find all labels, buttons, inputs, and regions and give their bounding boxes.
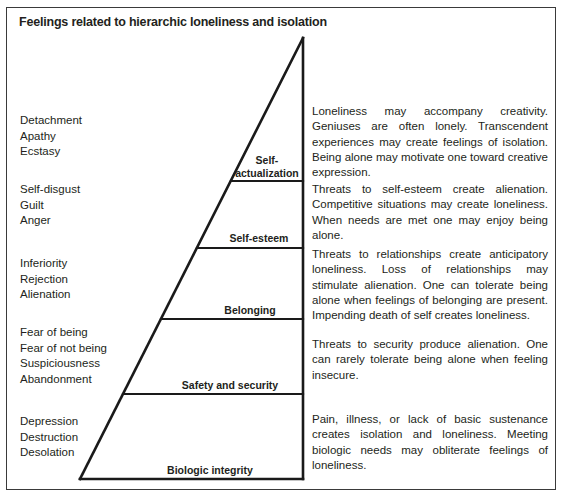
feeling-item: Detachment — [20, 113, 82, 129]
feeling-item: Rejection — [20, 272, 71, 288]
feelings-self-actualization: Detachment Apathy Ecstasy — [20, 113, 82, 160]
feeling-item: Fear of not being — [20, 341, 107, 357]
description-self-esteem: Threats to self-esteem create alienation… — [312, 182, 548, 243]
level-label-self-actualization: Self- actualization — [232, 154, 302, 180]
feeling-item: Self-disgust — [20, 182, 80, 198]
feeling-item: Suspiciousness — [20, 356, 107, 372]
description-biologic: Pain, illness, or lack of basic sustenan… — [312, 412, 548, 473]
feeling-item: Ecstasy — [20, 144, 82, 160]
feeling-item: Guilt — [20, 198, 80, 214]
feeling-item: Desolation — [20, 445, 78, 461]
description-self-actualization: Loneliness may accompany creativity. Gen… — [312, 104, 548, 180]
level-label-biologic: Biologic integrity — [120, 464, 300, 477]
feeling-item: Apathy — [20, 129, 82, 145]
description-safety: Threats to security produce alienation. … — [312, 337, 548, 383]
feeling-item: Inferiority — [20, 256, 71, 272]
feelings-safety: Fear of being Fear of not being Suspicio… — [20, 325, 107, 387]
pyramid-left-edge — [80, 38, 303, 479]
feeling-item: Abandonment — [20, 372, 107, 388]
feeling-item: Alienation — [20, 287, 71, 303]
level-label-self-esteem: Self-esteem — [218, 232, 300, 245]
feelings-self-esteem: Self-disgust Guilt Anger — [20, 182, 80, 229]
level-label-line: actualization — [232, 167, 302, 180]
feelings-biologic: Depression Destruction Desolation — [20, 414, 78, 461]
feeling-item: Destruction — [20, 430, 78, 446]
feelings-belonging: Inferiority Rejection Alienation — [20, 256, 71, 303]
feeling-item: Anger — [20, 213, 80, 229]
level-label-line: Self- — [232, 154, 302, 167]
feeling-item: Depression — [20, 414, 78, 430]
level-label-belonging: Belonging — [200, 304, 300, 317]
level-label-safety: Safety and security — [160, 379, 300, 392]
description-belonging: Threats to relationships create anticipa… — [312, 247, 548, 323]
feeling-item: Fear of being — [20, 325, 107, 341]
